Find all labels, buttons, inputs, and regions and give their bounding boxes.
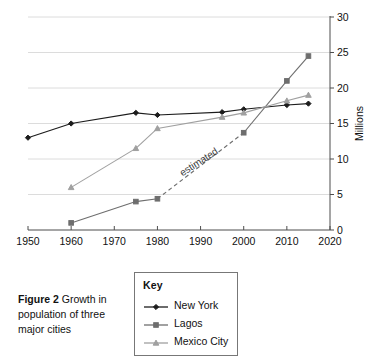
figure-container: 0510152025301950196019701980199020002010… <box>0 0 372 361</box>
series-lagos <box>69 54 311 225</box>
series-segment <box>222 109 244 112</box>
data-point-marker <box>219 114 225 119</box>
tick-label-group: 0510152025301950196019701980199020002010… <box>16 11 349 247</box>
series-segment <box>136 113 158 115</box>
x-tick-label: 1990 <box>189 235 213 247</box>
data-point-marker <box>133 110 138 115</box>
data-point-marker <box>241 130 246 135</box>
legend-item-label: Lagos <box>174 317 203 329</box>
series-segment <box>244 101 287 113</box>
x-tick-label: 1970 <box>103 235 127 247</box>
data-point-marker <box>306 54 311 59</box>
data-point-marker <box>69 221 74 226</box>
data-point-marker <box>155 196 160 201</box>
series-segment <box>71 202 136 223</box>
diamond-marker-icon <box>143 299 169 311</box>
x-tick-label: 2000 <box>232 235 256 247</box>
square-marker-icon <box>143 317 169 329</box>
y-tick-label: 10 <box>337 153 349 165</box>
legend-marker <box>153 304 158 309</box>
y-tick-label: 20 <box>337 82 349 94</box>
series-segment <box>287 104 309 105</box>
line-chart: 0510152025301950196019701980199020002010… <box>0 0 372 250</box>
y-axis-title: Millions <box>353 106 365 141</box>
legend-item-mexico-city: Mexico City <box>143 332 237 350</box>
x-tick-label: 1960 <box>59 235 83 247</box>
legend-title: Key <box>143 279 237 291</box>
series-segment <box>136 199 158 202</box>
series-segment <box>136 128 158 148</box>
data-point-marker <box>134 199 139 204</box>
legend-rows: New YorkLagosMexico City <box>143 296 237 350</box>
caption-label: Figure 2 <box>18 293 59 305</box>
legend-item-new-york: New York <box>143 296 237 314</box>
x-tick-label: 1950 <box>16 235 40 247</box>
legend-item-label: New York <box>174 299 218 311</box>
data-point-marker <box>69 121 74 126</box>
data-point-marker <box>241 110 247 115</box>
data-point-marker <box>155 112 160 117</box>
data-point-marker <box>284 98 290 103</box>
legend-key-box: Key New YorkLagosMexico City <box>134 272 238 356</box>
legend-item-lagos: Lagos <box>143 314 237 332</box>
series-segment <box>28 124 71 138</box>
y-tick-label: 30 <box>337 11 349 23</box>
x-tick-label: 2010 <box>275 235 299 247</box>
data-point-marker <box>285 79 290 84</box>
data-point-marker <box>68 185 74 190</box>
data-point-marker <box>306 92 312 97</box>
triangle-marker-icon <box>143 335 169 347</box>
series-segment <box>71 148 136 187</box>
series-segment <box>157 117 222 128</box>
data-point-marker <box>306 101 311 106</box>
series-segment <box>157 112 222 115</box>
legend-marker <box>153 340 159 345</box>
data-point-marker <box>155 126 161 131</box>
x-tick-label: 1980 <box>146 235 170 247</box>
y-tick-label: 15 <box>337 117 349 129</box>
y-tick-label: 0 <box>337 224 343 236</box>
series-segment <box>287 56 309 81</box>
series-segment <box>287 95 309 101</box>
data-point-marker <box>25 135 30 140</box>
legend-item-label: Mexico City <box>174 335 228 347</box>
figure-caption: Figure 2 Growth in population of three m… <box>18 292 126 337</box>
series-new-york <box>25 101 311 140</box>
annotation-group: estimated <box>177 145 219 178</box>
series-mexico-city <box>68 92 311 189</box>
y-tick-label: 25 <box>337 46 349 58</box>
estimated-annotation: estimated <box>177 145 219 178</box>
legend-marker <box>154 323 159 328</box>
series-group <box>25 54 311 225</box>
chart-svg: 0510152025301950196019701980199020002010… <box>0 0 372 250</box>
series-segment <box>71 113 136 124</box>
x-tick-label: 2020 <box>318 235 342 247</box>
y-tick-label: 5 <box>337 188 343 200</box>
